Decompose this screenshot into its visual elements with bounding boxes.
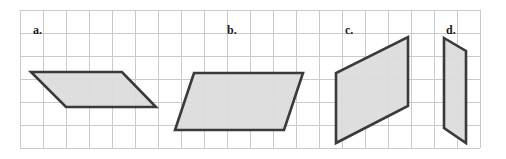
parallelogram-c — [336, 37, 408, 143]
parallelogram-d — [444, 38, 466, 143]
label-d: d. — [446, 23, 456, 37]
label-c: c. — [345, 23, 353, 37]
label-b: b. — [227, 23, 237, 37]
shape-labels-layer: a.b.c.d. — [33, 23, 456, 37]
shapes-layer — [31, 37, 466, 143]
parallelograms-diagram: a.b.c.d. — [0, 0, 506, 159]
figure-container: a.b.c.d. — [0, 0, 506, 159]
label-a: a. — [33, 23, 42, 37]
parallelogram-a — [31, 72, 156, 107]
parallelogram-b — [175, 73, 303, 130]
